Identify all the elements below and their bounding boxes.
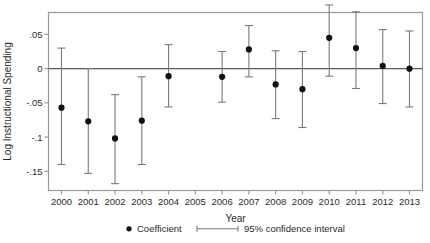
x-axis-tick-label: 2003: [131, 196, 152, 207]
data-point-marker: [139, 118, 145, 124]
y-axis-tick-label: -.1: [31, 132, 42, 143]
y-axis-tick-label: -.15: [26, 166, 42, 177]
data-point-marker: [353, 45, 359, 51]
chart-figure: .050-.05-.1-.152000200120022003200420052…: [0, 0, 430, 243]
x-axis-tick-label: 2007: [238, 196, 259, 207]
x-axis-tick-label: 2001: [78, 196, 99, 207]
x-axis-tick-label: 2005: [185, 196, 206, 207]
data-point-marker: [85, 118, 91, 124]
coefficient-plot: .050-.05-.1-.152000200120022003200420052…: [0, 0, 430, 243]
x-axis-tick-label: 2000: [51, 196, 72, 207]
data-point-marker: [58, 105, 64, 111]
data-point-marker: [326, 35, 332, 41]
y-axis-tick-label: -.05: [26, 97, 42, 108]
y-axis-title: Log Instructional Spending: [2, 42, 13, 160]
data-point-marker: [380, 63, 386, 69]
data-point-marker: [299, 86, 305, 92]
x-axis-tick-label: 2010: [319, 196, 340, 207]
legend-coefficient-marker-icon: [126, 226, 131, 231]
x-axis-tick-label: 2011: [346, 196, 366, 207]
data-point-marker: [112, 135, 118, 141]
y-axis-tick-label: .05: [29, 29, 42, 40]
data-point-marker: [406, 66, 412, 72]
legend-confidence-interval-label: 95% confidence interval: [244, 223, 345, 234]
y-axis-tick-label: 0: [37, 63, 42, 74]
x-axis-tick-label: 2004: [158, 196, 179, 207]
x-axis-tick-label: 2006: [212, 196, 233, 207]
plot-frame: [49, 13, 423, 191]
data-point-marker: [165, 73, 171, 79]
x-axis-tick-label: 2013: [399, 196, 420, 207]
data-point-marker: [273, 81, 279, 87]
data-point-marker: [246, 46, 252, 52]
x-axis-tick-label: 2009: [292, 196, 313, 207]
legend-coefficient-label: Coefficient: [137, 223, 182, 234]
data-point-marker: [219, 74, 225, 80]
x-axis-title: Year: [225, 213, 246, 224]
x-axis-tick-label: 2012: [372, 196, 393, 207]
x-axis-tick-label: 2002: [104, 196, 125, 207]
x-axis-tick-label: 2008: [265, 196, 286, 207]
